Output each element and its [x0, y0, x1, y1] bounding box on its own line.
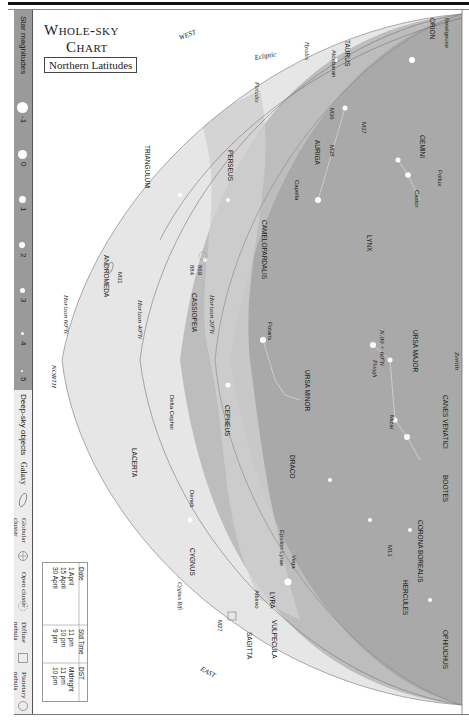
- std-time-header: Std Time: [78, 629, 85, 655]
- table-cell: 11 pm: [68, 629, 75, 647]
- constellation-label: CYGNUS: [189, 548, 196, 576]
- bottom-rule: [14, 714, 469, 715]
- west-label: WEST: [178, 28, 198, 42]
- object-label: M31: [117, 272, 123, 284]
- table-cell: 10 pm: [60, 629, 67, 647]
- horizon-40-label: Horizon 40°N: [136, 299, 144, 339]
- constellation-label: CANES VENATICI: [442, 395, 449, 449]
- object-label: Cygnus Rift: [177, 582, 183, 610]
- horizon-20-label: Horizon 20°N: [208, 294, 216, 334]
- ecliptic-label: Ecliptic: [253, 50, 278, 62]
- table-cell: 30 April: [52, 567, 59, 589]
- table-cell: 1 April: [68, 567, 75, 585]
- constellation-label: PERSEUS: [227, 150, 234, 182]
- constellation-label: OPHIUCHUS: [442, 630, 449, 670]
- date-header: Date: [78, 567, 85, 581]
- star-label: Pollux: [437, 170, 443, 186]
- constellation-label: ORION: [429, 18, 436, 40]
- star-label: Aldebaran: [331, 50, 337, 77]
- object-label: M36: [329, 108, 335, 120]
- constellation-label: LYNX: [366, 235, 373, 252]
- object-label: 884: [189, 265, 195, 276]
- constellation-label: SAGITTA: [246, 632, 253, 660]
- constellation-label: HERCULES: [402, 580, 409, 616]
- star-label: Epsilon Lyrae: [279, 530, 285, 567]
- constellation-label: LYRA: [269, 592, 276, 609]
- constellation-label: TAURUS: [344, 40, 351, 67]
- star-label: Polaris: [267, 322, 273, 340]
- constellation-label: LACERTA: [131, 448, 138, 478]
- object-label: 869: [197, 265, 203, 276]
- table-cell: 10 pm: [52, 667, 59, 685]
- table-cell: 15 April: [60, 567, 67, 589]
- constellation-label: CASSIOPEIA: [191, 293, 198, 333]
- object-label: Pleiades: [254, 81, 260, 103]
- horizon-60-label: Horizon 60°N: [62, 294, 70, 334]
- constellation-label: CORONA BOREALIS: [417, 520, 424, 583]
- object-label: M13: [387, 545, 393, 557]
- constellation-label: AURIGA: [314, 140, 321, 166]
- constellation-label: CEPHEUS: [224, 405, 231, 437]
- object-label: M38: [329, 145, 335, 157]
- constellation-label: GEMINI: [419, 135, 426, 158]
- star-label: Delta Cephei: [169, 395, 175, 430]
- star-label: Albireo: [254, 590, 260, 609]
- east-label: EAST: [198, 664, 218, 680]
- north-label: NORTH: [50, 364, 58, 389]
- star-label: Capella: [294, 180, 300, 201]
- object-label: M37: [361, 122, 367, 134]
- dst-header: DST: [78, 667, 85, 680]
- star-label: Mizar: [389, 415, 395, 430]
- constellation-label: ANDROMEDA: [103, 255, 110, 298]
- constellation-label: URSA MAJOR: [412, 330, 419, 373]
- observing-time-table: Date Std Time DST 1 April 15 April 30 Ap…: [42, 562, 88, 702]
- zenith-label: Zenith: [453, 352, 461, 370]
- constellation-label: URSA MINOR: [304, 370, 311, 411]
- constellation-label: DRACO: [289, 455, 296, 478]
- table-cell: 11 pm: [60, 667, 67, 685]
- plough-label: Plough: [372, 359, 378, 377]
- constellation-label: VULPECULA: [271, 620, 278, 659]
- table-cell: 9 pm: [52, 629, 59, 643]
- object-label: Hyades: [304, 41, 310, 61]
- constellation-label: TRIANGULUM: [144, 145, 151, 188]
- star-label: Betelgeuse: [444, 18, 450, 49]
- constellation-label: CAMELOPARDALIS: [261, 220, 268, 280]
- pole-marker-label: N.09 + 60°N: [378, 329, 386, 366]
- star-label: Castor: [414, 190, 420, 208]
- constellation-label: BOOTES: [442, 475, 449, 503]
- table-cell: Midnight: [68, 667, 75, 692]
- star-label: Deneb: [189, 490, 195, 508]
- star-label: Vega: [291, 555, 297, 569]
- object-label: M27: [217, 620, 223, 632]
